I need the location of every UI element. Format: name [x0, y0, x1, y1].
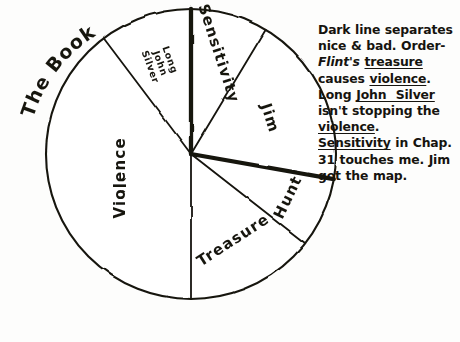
- annotation-note: Dark line separates nice & bad. Order-Fl…: [318, 22, 456, 184]
- slice-label-violence: Violence: [111, 137, 129, 218]
- note-segment-5: violence: [369, 71, 426, 86]
- note-segment-3: treasure: [365, 54, 423, 69]
- note-segment-10: .: [375, 119, 384, 134]
- note-segment-1: Flint's: [318, 54, 360, 69]
- note-segment-0: Dark line separates nice & bad. Order-: [318, 22, 457, 53]
- slice-label-violence-text: Violence: [111, 137, 129, 218]
- note-segment-11: Sensitivity: [318, 135, 391, 150]
- note-segment-7: John Silver: [356, 87, 435, 102]
- chart-canvas: SensitivityJimHuntTreasureViolenceLongJo…: [0, 0, 460, 342]
- note-segment-9: violence: [318, 119, 375, 134]
